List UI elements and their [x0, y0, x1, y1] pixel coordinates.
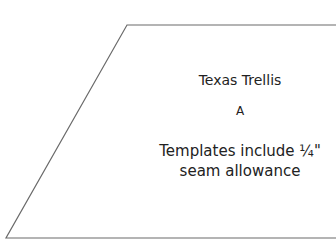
note-line-2: seam allowance [150, 161, 330, 181]
seam-allowance-note: Templates include ¼" seam allowance [150, 141, 330, 181]
template-outline-parallelogram [0, 0, 336, 240]
template-title: Texas Trellis [160, 72, 320, 88]
note-line-1: Templates include ¼" [150, 141, 330, 161]
piece-label: A [160, 104, 320, 118]
